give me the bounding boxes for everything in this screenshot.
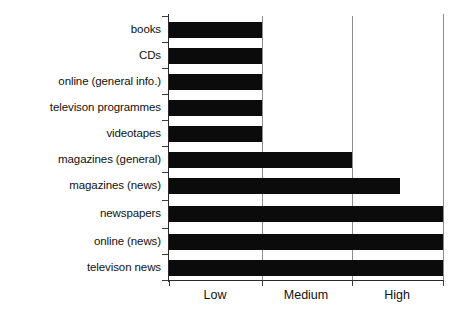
plot-right-frame: [443, 14, 444, 281]
bar-online-news: [169, 234, 443, 250]
x-axis-tick: [352, 280, 353, 286]
category-labels: books CDs online (general info.) televis…: [0, 0, 165, 318]
category-label-newspapers: newspapers: [100, 207, 161, 220]
y-axis-line: [168, 14, 169, 282]
bar-chart: books CDs online (general info.) televis…: [0, 0, 469, 318]
bar-newspapers: [169, 206, 443, 222]
category-label-televison-programmes: televison programmes: [50, 101, 161, 114]
x-tick-label-low: Low: [204, 288, 227, 302]
bar-magazines-news: [169, 178, 400, 194]
bar-videotapes: [169, 126, 262, 142]
category-label-books: books: [131, 23, 161, 36]
x-axis-tick: [443, 280, 444, 286]
x-axis-line: [168, 280, 444, 281]
x-axis-tick: [169, 280, 170, 286]
category-label-online-news: online (news): [94, 235, 161, 248]
category-label-online-general-info: online (general info.): [58, 75, 161, 88]
bar-televison-programmes: [169, 100, 262, 116]
category-label-magazines-news: magazines (news): [69, 179, 161, 192]
bar-cds: [169, 48, 262, 64]
category-label-magazines-general: magazines (general): [58, 153, 161, 166]
category-label-videotapes: videotapes: [106, 127, 161, 140]
category-label-televison-news: televison news: [87, 261, 161, 274]
x-tick-label-high: High: [384, 288, 410, 302]
x-axis-tick: [262, 280, 263, 286]
bar-televison-news: [169, 260, 443, 276]
category-label-cds: CDs: [139, 49, 161, 62]
bar-books: [169, 22, 262, 38]
bar-online-general-info: [169, 74, 262, 90]
x-tick-label-medium: Medium: [284, 288, 328, 302]
bar-magazines-general: [169, 152, 352, 168]
